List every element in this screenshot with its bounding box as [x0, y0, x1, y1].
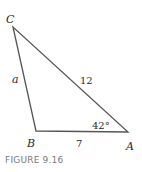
vertex-label-a: A	[125, 140, 134, 153]
side-label-ca: 12	[80, 75, 93, 86]
vertex-label-b: B	[26, 137, 35, 150]
vertex-label-c: C	[6, 13, 15, 26]
triangle-abc	[13, 27, 128, 132]
side-label-ba: 7	[76, 138, 82, 149]
angle-label-a: 42°	[92, 120, 110, 131]
side-label-a: a	[12, 73, 19, 86]
figure-caption: FIGURE 9.16	[5, 155, 63, 165]
triangle-diagram: C a 12 42° B 7 A	[0, 0, 142, 172]
